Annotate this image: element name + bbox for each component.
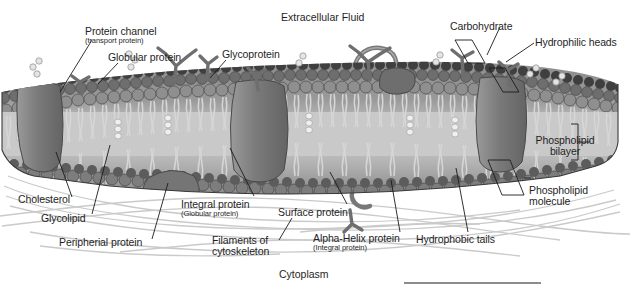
- label-phospholipid-bilayer: Phospholipidbilayer: [525, 135, 605, 157]
- label-hydrophobic-tails: Hydrophobic tails: [416, 234, 495, 245]
- label-glycolipid: Glycolipid: [41, 213, 86, 224]
- label-globular-protein-line1: Globular protein: [108, 52, 181, 63]
- label-alpha-helix-protein-sub: (Integral protein): [313, 244, 400, 252]
- label-peripherial-protein-line1: Peripherial protein: [59, 237, 142, 248]
- label-surface-protein-line1: Surface protein: [278, 207, 348, 218]
- label-surface-protein: Surface protein: [278, 207, 348, 218]
- label-hydrophobic-tails-line1: Hydrophobic tails: [416, 234, 495, 245]
- label-carbohydrate: Carbohydrate: [450, 21, 512, 32]
- label-alpha-helix-protein: Alpha-Helix protein(Integral protein): [313, 233, 400, 252]
- label-carbohydrate-line1: Carbohydrate: [450, 21, 512, 32]
- line-carbohydrate-box: [455, 40, 485, 63]
- label-protein-channel: Protein channel(transport protein): [85, 26, 156, 45]
- label-hydrophilic-heads-line1: Hydrophilic heads: [535, 37, 617, 48]
- label-glycolipid-line1: Glycolipid: [41, 213, 86, 224]
- label-hydrophilic-heads: Hydrophilic heads: [535, 37, 617, 48]
- label-glycoprotein: Glycoprotein: [222, 49, 280, 60]
- label-protein-channel-sub: (transport protein): [85, 37, 156, 45]
- label-peripherial-protein: Peripherial protein: [59, 237, 142, 248]
- line-hydrophilic-a: [506, 43, 534, 62]
- label-cholesterol-line1: Cholesterol: [18, 194, 70, 205]
- label-integral-protein: Integral protein(Globular protein): [181, 199, 249, 218]
- heading-cytoplasm: Cytoplasm: [279, 268, 329, 280]
- label-integral-protein-sub: (Globular protein): [181, 210, 249, 218]
- diagram-canvas: Extracellular Fluid Cytoplasm Protein ch…: [0, 0, 636, 292]
- label-filaments-cytoskeleton: Filaments ofcytoskeleton: [212, 235, 269, 257]
- membrane-slab: [0, 55, 636, 205]
- label-globular-protein: Globular protein: [108, 52, 181, 63]
- label-glycoprotein-line1: Glycoprotein: [222, 49, 280, 60]
- heading-extracellular-fluid: Extracellular Fluid: [281, 11, 364, 23]
- label-phospholipid-molecule-line2: molecule: [529, 196, 588, 207]
- label-cholesterol: Cholesterol: [18, 194, 70, 205]
- label-filaments-cytoskeleton-line2: cytoskeleton: [212, 246, 269, 257]
- label-phospholipid-bilayer-line2: bilayer: [525, 146, 605, 157]
- label-phospholipid-molecule: Phospholipidmolecule: [529, 185, 588, 207]
